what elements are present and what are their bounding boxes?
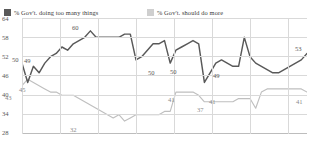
label-53-end: 53 [295, 45, 302, 52]
label-49-right: 49 [213, 72, 220, 79]
gridline-v-3 [136, 18, 137, 134]
legend-label-series-0: % Gov't. doing too many things [14, 9, 98, 16]
label-45: 45 [19, 86, 26, 93]
label-50-mid-a: 50 [148, 69, 155, 76]
axis-bottom [22, 133, 307, 134]
gridline-h-52 [22, 56, 307, 57]
label-41-end: 41 [296, 98, 303, 105]
series-lines [22, 18, 307, 134]
label-41-mid-a: 41 [168, 96, 175, 103]
label-41-mid-b: 41 [209, 98, 216, 105]
gridline-v-7 [288, 18, 289, 134]
gridline-v-6 [250, 18, 251, 134]
y-tick-34: 34 [2, 110, 20, 117]
gridline-v-4 [174, 18, 175, 134]
gridline-v-0 [22, 18, 23, 134]
gridline-h-46 [22, 75, 307, 76]
label-43: 43 [5, 94, 12, 101]
legend-item-gov-doing-too-many-things: % Gov't. doing too many things [4, 2, 98, 14]
plot-area [22, 18, 307, 134]
label-49-start: 49 [24, 57, 31, 64]
label-50-mid-b: 50 [170, 68, 177, 75]
legend-swatch-series-1 [147, 9, 154, 16]
y-tick-46: 46 [2, 72, 20, 79]
gridline-h-64 [22, 18, 307, 19]
chart-legend: % Gov't. doing too many things % Gov't. … [4, 2, 309, 14]
chart-container: % Gov't. doing too many things % Gov't. … [0, 0, 309, 141]
gridline-h-34 [22, 114, 307, 115]
gridline-h-40 [22, 95, 307, 96]
gridline-v-1 [60, 18, 61, 134]
gridline-v-2 [98, 18, 99, 134]
label-32-low: 32 [70, 126, 77, 133]
label-60-peak: 60 [72, 24, 79, 31]
label-50-start: 50 [12, 56, 19, 63]
gridline-h-58 [22, 37, 307, 38]
y-tick-64: 64 [2, 15, 20, 22]
legend-label-series-1: % Gov't. should do more [157, 9, 223, 16]
y-tick-58: 58 [2, 34, 20, 41]
legend-item-gov-should-do-more: % Gov't. should do more [147, 2, 223, 14]
y-tick-28: 28 [2, 129, 20, 136]
label-37: 37 [197, 106, 204, 113]
